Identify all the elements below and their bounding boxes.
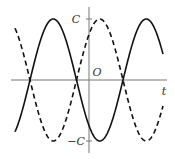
label-origin: O [92, 66, 101, 79]
sinusoid-chart: C −C O t [0, 0, 175, 159]
label-minus-c: −C [67, 135, 85, 148]
label-c: C [72, 13, 81, 26]
chart-canvas: C −C O t [0, 0, 175, 159]
label-t-axis: t [162, 85, 167, 98]
